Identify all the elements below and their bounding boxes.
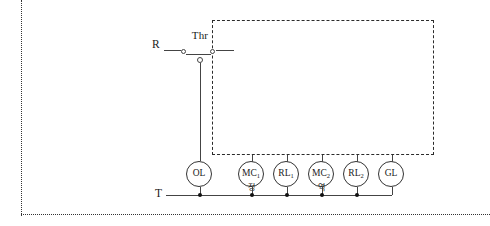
wire-r-to-contact: [164, 50, 181, 51]
junction-dot-ol: [198, 193, 202, 197]
terminal-label-r: R: [152, 39, 160, 51]
thr-contact-label: Thr: [178, 30, 222, 41]
thr-contact-symbol: [181, 42, 217, 58]
junction-dot-rl2: [355, 193, 359, 197]
device-mc1-label: MC1: [242, 169, 260, 179]
wire-drop-to-ol: [200, 63, 201, 161]
diagram-canvas: R Thr OL MC1 RL1 MC2 RL2 GL 정 역: [0, 0, 490, 226]
dashed-enclosure: [212, 20, 434, 155]
device-mc2-label: MC2: [312, 169, 330, 179]
device-rl1[interactable]: RL1: [273, 161, 299, 187]
junction-dot-rl1: [285, 193, 289, 197]
junction-dot-mc2: [320, 193, 324, 197]
wire-contact-to-enclosure: [216, 50, 234, 51]
device-rl2-label: RL2: [348, 169, 363, 179]
device-ol-label: OL: [193, 169, 206, 179]
device-rl1-label: RL1: [278, 169, 293, 179]
thr-contact-bar: [186, 54, 211, 55]
device-gl-label: GL: [385, 169, 398, 179]
device-rl2[interactable]: RL2: [343, 161, 369, 187]
device-gl[interactable]: GL: [378, 161, 404, 187]
device-ol[interactable]: OL: [186, 161, 212, 187]
scan-border-left: [21, 0, 22, 216]
terminal-label-t: T: [155, 188, 162, 200]
junction-dot-mc1: [250, 193, 254, 197]
scan-border-bottom: [21, 214, 490, 215]
